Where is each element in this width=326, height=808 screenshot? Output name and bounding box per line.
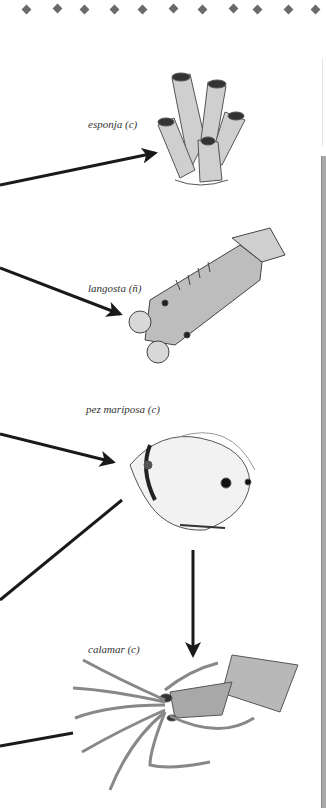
line-from-butterflyfish xyxy=(0,500,122,600)
butterflyfish-illustration-icon xyxy=(130,433,255,530)
arrow-to-butterflyfish xyxy=(0,434,113,462)
lobster-illustration-icon xyxy=(129,228,285,363)
food-web-canvas xyxy=(0,0,326,808)
label-squid: calamar (c) xyxy=(88,643,140,655)
line-from-squid xyxy=(0,733,73,746)
label-sponge: esponja (c) xyxy=(88,118,137,130)
sponge-illustration-icon xyxy=(158,73,245,185)
arrow-to-sponge xyxy=(0,153,155,185)
squid-illustration-icon xyxy=(73,655,298,790)
label-lobster: langosta (ñ) xyxy=(88,282,141,294)
label-butterflyfish: pez mariposa (c) xyxy=(86,403,160,415)
